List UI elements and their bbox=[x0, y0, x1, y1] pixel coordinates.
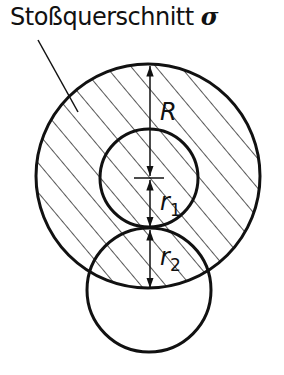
label-R: R bbox=[160, 100, 177, 124]
collision-cross-section-diagram bbox=[0, 0, 284, 375]
label-r1: r1 bbox=[160, 190, 181, 219]
label-r2: r2 bbox=[160, 245, 181, 274]
